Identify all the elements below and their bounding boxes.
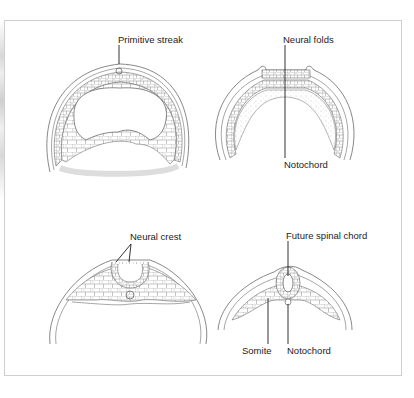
panel-neural-crest-drawing — [50, 260, 207, 344]
label-notochord-top: Notochord — [284, 159, 328, 170]
label-notochord-bottom: Notochord — [287, 345, 331, 356]
label-primitive-streak: Primitive streak — [118, 34, 183, 45]
neural-crest-leader-lines — [116, 244, 131, 262]
label-neural-crest: Neural crest — [130, 231, 181, 242]
embryo-cross-section-diagram — [0, 0, 414, 398]
label-future-spinal-chord: Future spinal chord — [286, 230, 367, 241]
panel-neural-tube-drawing — [218, 266, 352, 330]
label-somite: Somite — [242, 345, 272, 356]
panel-primitive-streak-drawing — [47, 64, 189, 174]
label-neural-folds: Neural folds — [283, 34, 334, 45]
